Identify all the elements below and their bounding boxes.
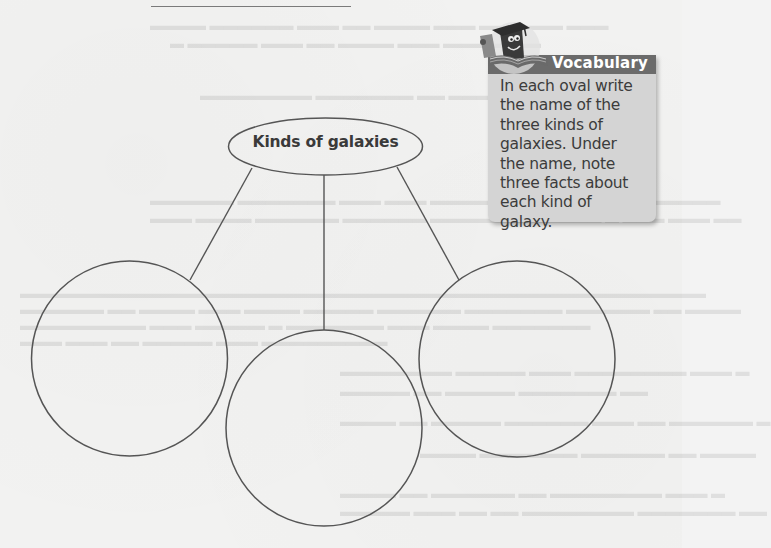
left-oval[interactable] bbox=[32, 261, 228, 456]
instruction-line: In each oval write bbox=[500, 77, 652, 96]
instruction-line: each kind of bbox=[500, 193, 652, 212]
vocabulary-instructions: In each oval write the name of the three… bbox=[500, 77, 652, 232]
connector-left bbox=[190, 168, 252, 280]
connector-right bbox=[397, 167, 459, 280]
vocabulary-title: Vocabulary bbox=[552, 54, 648, 72]
instruction-line: three facts about bbox=[500, 174, 652, 193]
vocabulary-box: Vocabulary In each oval write the name o… bbox=[488, 55, 656, 222]
central-oval-label: Kinds of galaxies bbox=[228, 133, 423, 151]
instruction-line: the name, note bbox=[500, 155, 652, 174]
book-mascot-graduation-cap-icon bbox=[478, 18, 558, 76]
center-oval[interactable] bbox=[226, 330, 422, 526]
instruction-line: galaxy. bbox=[500, 213, 652, 232]
instruction-line: the name of the bbox=[500, 96, 652, 115]
right-oval[interactable] bbox=[419, 261, 615, 457]
instruction-line: three kinds of bbox=[500, 116, 652, 135]
instruction-line: galaxies. Under bbox=[500, 135, 652, 154]
